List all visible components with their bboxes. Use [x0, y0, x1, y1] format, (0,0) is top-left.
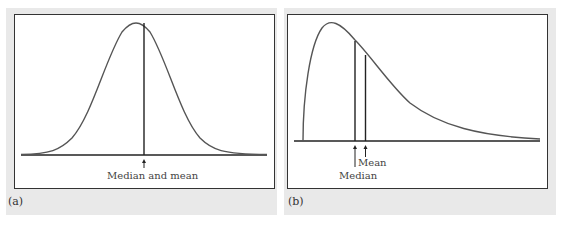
panel-b-median-arrow-head-icon: [353, 145, 357, 149]
panel-a-arrow-head-icon: [142, 159, 146, 163]
panel-b-skewed-curve: [303, 23, 540, 141]
curves-layer: [0, 0, 564, 228]
panel-b-mean-arrow-head-icon: [364, 145, 368, 149]
